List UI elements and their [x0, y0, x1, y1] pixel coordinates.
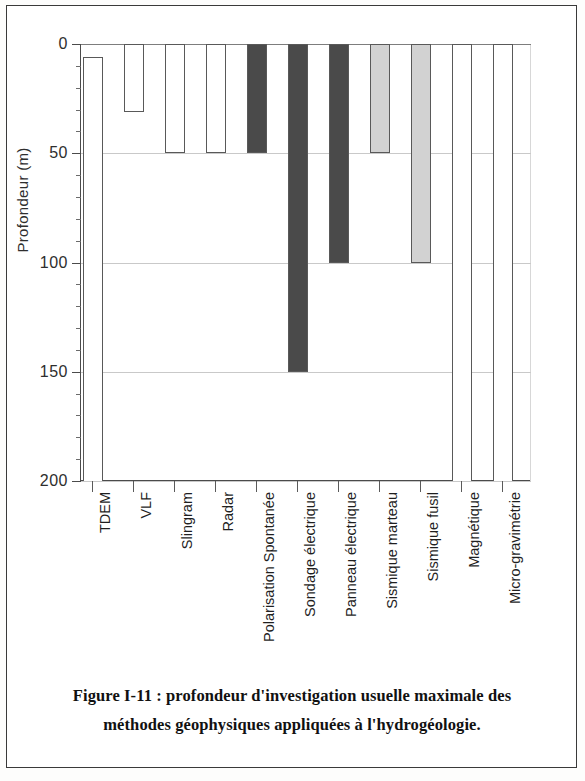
x-axis-label: Polarisation Spontanée: [261, 492, 277, 642]
x-tick: [174, 481, 175, 492]
y-tick-minor: [76, 197, 81, 198]
figure-page: Profondeur (m) 050100150200 TDEMVLFSling…: [0, 0, 585, 781]
bar: [329, 44, 349, 263]
bar: [452, 44, 472, 481]
bar: [165, 44, 185, 153]
x-tick: [502, 481, 503, 492]
y-tick-minor: [76, 88, 81, 89]
y-tick-minor: [76, 131, 81, 132]
y-tick-minor: [76, 284, 81, 285]
caption-line-1: Figure I-11 : profondeur d'investigation…: [73, 686, 511, 705]
y-tick-minor: [76, 415, 81, 416]
y-tick-major: [72, 481, 81, 482]
x-axis-label: Magnétique: [466, 492, 482, 568]
x-axis-label: Sismique fusil: [425, 492, 441, 581]
y-tick-minor: [76, 175, 81, 176]
y-tick-minor: [76, 459, 81, 460]
y-tick-minor: [76, 66, 81, 67]
caption-line-2: méthodes géophysiques appliquées à l'hyd…: [34, 711, 550, 740]
y-tick-minor: [76, 110, 81, 111]
y-tick-label: 150: [40, 363, 68, 381]
x-axis-label: Sondage électrique: [302, 492, 318, 617]
bar: [83, 57, 103, 481]
bar: [370, 44, 390, 153]
bar: [247, 44, 267, 153]
x-tick: [461, 481, 462, 492]
x-axis-label: TDEM: [97, 492, 113, 533]
x-axis-label: Micro-gravimétrie: [507, 492, 523, 604]
y-tick-label: 50: [49, 144, 68, 162]
x-axis-label: Radar: [220, 492, 236, 532]
y-tick-major: [72, 263, 81, 264]
bar: [124, 44, 144, 112]
x-tick: [379, 481, 380, 492]
y-tick-major: [72, 153, 81, 154]
bar-chart-figure: Profondeur (m) 050100150200 TDEMVLFSling…: [0, 0, 585, 781]
y-tick-minor: [76, 437, 81, 438]
x-axis-label: Panneau électrique: [343, 492, 359, 617]
bar: [493, 44, 513, 481]
x-tick: [338, 481, 339, 492]
y-tick-minor: [76, 350, 81, 351]
y-tick-minor: [76, 241, 81, 242]
x-axis-label: VLF: [138, 492, 154, 519]
bar: [288, 44, 308, 372]
y-tick-major: [72, 372, 81, 373]
y-axis-title: Profondeur (m): [14, 147, 31, 252]
y-gridline: [81, 481, 531, 482]
bar: [411, 44, 431, 263]
y-tick-minor: [76, 306, 81, 307]
x-axis-label: Slingram: [179, 492, 195, 549]
y-tick-minor: [76, 394, 81, 395]
x-tick: [297, 481, 298, 492]
x-tick: [133, 481, 134, 492]
x-tick: [215, 481, 216, 492]
figure-caption: Figure I-11 : profondeur d'investigation…: [34, 682, 550, 740]
y-tick-minor: [76, 328, 81, 329]
x-axis-label: Sismique marteau: [384, 492, 400, 609]
y-tick-major: [72, 44, 81, 45]
x-tick: [92, 481, 93, 492]
x-tick: [420, 481, 421, 492]
plot-area: 050100150200: [80, 44, 530, 481]
bar: [206, 44, 226, 153]
y-tick-label: 100: [40, 254, 68, 272]
y-tick-label: 200: [40, 472, 68, 490]
y-tick-minor: [76, 219, 81, 220]
x-tick: [256, 481, 257, 492]
y-tick-label: 0: [59, 35, 68, 53]
